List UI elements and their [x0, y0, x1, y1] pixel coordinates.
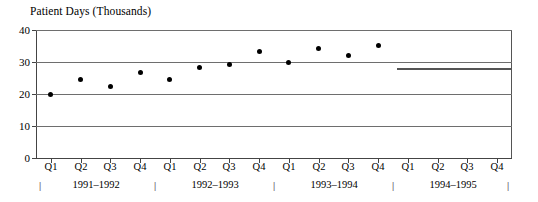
y-tick-30	[32, 62, 36, 63]
quarter-label-row: Q1Q2Q3Q4Q1Q2Q3Q4Q1Q2Q3Q4Q1Q2Q3Q4	[36, 160, 512, 175]
y-tick-40	[32, 30, 36, 31]
data-point	[48, 92, 53, 97]
data-point	[108, 84, 113, 89]
x-axis-line	[36, 158, 512, 159]
quarter-label-15: Q4	[491, 160, 504, 173]
year-group-label-2: 1993–1994	[310, 178, 357, 192]
gridline-40	[36, 30, 512, 31]
gridline-20	[36, 94, 512, 95]
quarter-label-1: Q2	[75, 160, 88, 173]
quarter-label-0: Q1	[45, 160, 58, 173]
y-tick-10	[32, 126, 36, 127]
data-point	[257, 49, 262, 54]
data-point	[376, 43, 381, 48]
year-group-label-1: 1992–1993	[191, 178, 238, 192]
year-separator-2: |	[273, 179, 275, 192]
quarter-label-7: Q4	[253, 160, 266, 173]
y-axis-label-10: 10	[19, 121, 30, 132]
quarter-label-11: Q4	[372, 160, 385, 173]
gridline-30	[36, 62, 512, 63]
data-point	[78, 77, 83, 82]
year-group-label-3: 1994–1995	[429, 178, 476, 192]
patient-days-chart: Patient Days (Thousands) 010203040 Q1Q2Q…	[0, 0, 538, 202]
quarter-label-13: Q2	[432, 160, 445, 173]
quarter-label-4: Q1	[164, 160, 177, 173]
data-point	[197, 65, 202, 70]
data-point	[138, 70, 143, 75]
year-label-row: 1991–19921992–19931993–19941994–1995||||…	[36, 178, 512, 194]
quarter-label-2: Q3	[104, 160, 117, 173]
gridline-10	[36, 126, 512, 127]
quarter-label-10: Q3	[342, 160, 355, 173]
y-tick-0	[32, 158, 36, 159]
data-point	[227, 62, 232, 67]
y-tick-20	[32, 94, 36, 95]
projection-line	[397, 68, 512, 70]
year-separator-1: |	[154, 179, 156, 192]
data-point	[346, 53, 351, 58]
plot-area	[36, 30, 512, 158]
y-axis-label-30: 30	[19, 57, 30, 68]
y-axis-label-0: 0	[25, 153, 31, 164]
quarter-label-14: Q3	[461, 160, 474, 173]
year-separator-4: |	[507, 179, 509, 192]
quarter-label-12: Q1	[402, 160, 415, 173]
year-separator-3: |	[392, 179, 394, 192]
quarter-label-3: Q4	[134, 160, 147, 173]
quarter-label-6: Q3	[223, 160, 236, 173]
quarter-label-9: Q2	[313, 160, 326, 173]
quarter-label-5: Q2	[194, 160, 207, 173]
data-point	[316, 46, 321, 51]
data-point	[167, 77, 172, 82]
y-axis-labels: 010203040	[6, 30, 30, 159]
y-axis-label-20: 20	[19, 89, 30, 100]
data-point	[286, 60, 291, 65]
year-group-label-0: 1991–1992	[72, 178, 119, 192]
y-axis-label-40: 40	[19, 25, 30, 36]
year-separator-0: |	[39, 179, 41, 192]
chart-title: Patient Days (Thousands)	[30, 4, 151, 18]
quarter-label-8: Q1	[283, 160, 296, 173]
